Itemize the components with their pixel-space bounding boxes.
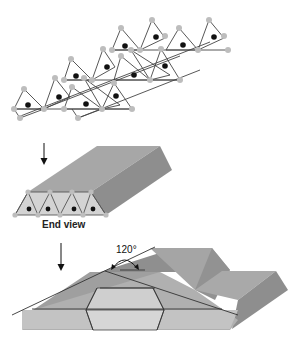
- down-arrow-icon: [58, 243, 65, 271]
- single-chain-prism: [12, 146, 172, 218]
- oxygen-atoms: [11, 17, 231, 121]
- angle-label: 120°: [116, 244, 137, 255]
- down-arrow-icon: [41, 143, 48, 165]
- silicate-chain-diagram: [0, 0, 297, 339]
- tetrahedra-chain: [14, 20, 228, 118]
- silicon-atoms: [25, 34, 217, 108]
- prism-end-face: [15, 192, 106, 215]
- end-view-label: End view: [42, 219, 85, 230]
- stacked-chains-cleavage: [12, 247, 288, 330]
